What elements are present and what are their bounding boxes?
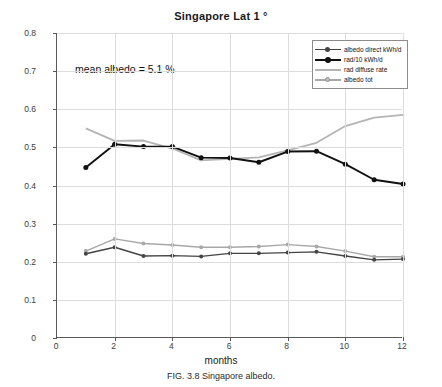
legend-item-rad-diffuse[interactable]: rad diffuse rate [315, 65, 405, 74]
legend-label: albedo direct kWh/d [341, 46, 401, 53]
figure-container: Singapore Lat 1 ° mean albedo = 5.1 % kW… [0, 0, 442, 387]
chart-title: Singapore Lat 1 ° [0, 10, 442, 22]
legend-item-albedo-tot[interactable]: albedo tot [315, 75, 405, 84]
x-tick-label: 12 [387, 341, 417, 351]
y-tick-label: 0.8 [0, 28, 36, 38]
y-tick-mark [53, 33, 57, 34]
y-tick-mark [53, 224, 57, 225]
x-axis-label: months [0, 355, 442, 366]
y-tick-label: 0 [0, 333, 36, 343]
y-tick-mark [53, 147, 57, 148]
legend-item-albedo-direct[interactable]: albedo direct kWh/d [315, 45, 405, 54]
chart-legend[interactable]: albedo direct kWh/d rad/10 kWh/d rad dif… [312, 40, 408, 89]
data-point [314, 149, 319, 154]
gridline-vertical [172, 33, 173, 337]
data-point [315, 250, 319, 254]
legend-swatch-albedo-direct [315, 45, 341, 54]
data-point [84, 252, 88, 256]
data-point [315, 245, 319, 249]
y-tick-mark [53, 71, 57, 72]
y-tick-label: 0.4 [0, 181, 36, 191]
y-tick-mark [53, 186, 57, 187]
legend-swatch-albedo-tot [315, 75, 341, 84]
gridline-vertical [230, 33, 231, 337]
y-tick-mark [53, 300, 57, 301]
y-tick-label: 0.2 [0, 257, 36, 267]
figure-caption: FIG. 3.8 Singapore albedo. [0, 371, 442, 381]
x-tick-label: 4 [156, 341, 186, 351]
series-line-rad-diffuse-rate [86, 115, 403, 160]
series-line-albedo-tot [86, 239, 403, 257]
x-tick-label: 2 [99, 341, 129, 351]
data-point [257, 251, 261, 255]
y-tick-label: 0.6 [0, 104, 36, 114]
y-tick-mark [53, 338, 57, 339]
y-tick-label: 0.3 [0, 219, 36, 229]
legend-label: rad/10 kWh/d [341, 56, 383, 63]
data-point [142, 254, 146, 258]
gridline-vertical [288, 33, 289, 337]
y-tick-label: 0.5 [0, 142, 36, 152]
data-point [256, 160, 261, 165]
x-tick-label: 10 [329, 341, 359, 351]
x-tick-label: 0 [41, 341, 71, 351]
legend-label: albedo tot [341, 76, 373, 83]
y-tick-label: 0.1 [0, 295, 36, 305]
y-tick-label: 0.7 [0, 66, 36, 76]
data-point [257, 245, 261, 249]
series-line-rad-10-kwh-d [86, 144, 403, 184]
y-tick-mark [53, 109, 57, 110]
data-point [199, 254, 203, 258]
data-point [199, 155, 204, 160]
x-tick-label: 6 [214, 341, 244, 351]
legend-swatch-rad-diffuse [315, 65, 341, 74]
data-point [83, 165, 88, 170]
data-point [199, 245, 203, 249]
legend-swatch-rad10 [315, 55, 341, 64]
legend-label: rad diffuse rate [341, 66, 387, 73]
legend-item-rad10[interactable]: rad/10 kWh/d [315, 55, 405, 64]
gridline-vertical [115, 33, 116, 337]
data-point [142, 241, 146, 245]
data-point [372, 177, 377, 182]
y-tick-mark [53, 262, 57, 263]
x-tick-label: 8 [272, 341, 302, 351]
